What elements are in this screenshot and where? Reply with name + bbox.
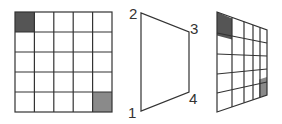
quadrilateral: 1 2 3 4: [128, 5, 198, 121]
right-perspective-grid: [217, 12, 267, 112]
perspective-diagram: 1 2 3 4: [0, 0, 282, 124]
left-grid-shaded-top-left: [15, 12, 34, 32]
corner-label-1: 1: [128, 104, 136, 121]
corner-label-3: 3: [190, 20, 198, 37]
left-grid-shaded-bottom-right: [93, 92, 112, 112]
corner-label-2: 2: [129, 5, 137, 22]
left-square-grid: [15, 12, 112, 112]
corner-label-4: 4: [189, 90, 197, 107]
